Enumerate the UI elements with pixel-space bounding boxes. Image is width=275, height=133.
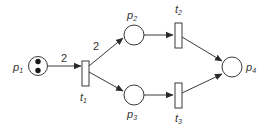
transition-t2 xyxy=(175,23,182,48)
label-t2: t2 xyxy=(175,3,182,16)
arc-t2-p4 xyxy=(182,37,222,61)
label-t3: t3 xyxy=(175,112,182,125)
weight-t1-p2: 2 xyxy=(93,40,99,52)
label-p4: p4 xyxy=(245,61,256,74)
place-p4 xyxy=(222,57,242,77)
weight-p1-t1: 2 xyxy=(61,52,67,64)
arc-t1-p3 xyxy=(89,72,123,91)
place-p3 xyxy=(124,85,144,105)
label-t1: t1 xyxy=(80,91,87,104)
label-p1: p1 xyxy=(12,61,23,74)
label-p3: p3 xyxy=(126,108,137,121)
label-p2: p2 xyxy=(126,9,137,22)
arc-t3-p4 xyxy=(182,74,222,93)
transition-t1 xyxy=(82,61,89,86)
token-icon xyxy=(35,59,40,64)
token-icon xyxy=(35,68,40,73)
petri-net-diagram: 2 2 p1 p2 p3 p4 t1 t2 t3 xyxy=(0,0,275,133)
transition-t3 xyxy=(175,83,182,108)
place-p2 xyxy=(124,25,144,45)
